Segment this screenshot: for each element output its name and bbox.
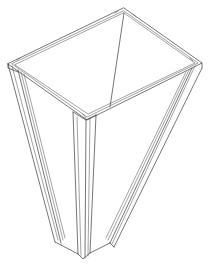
planter-drawing — [0, 0, 211, 264]
inner-fold-line — [110, 13, 124, 107]
front-corner-post — [73, 112, 96, 259]
planter-illustration — [0, 0, 211, 264]
bottom-edges — [61, 243, 110, 254]
left-corner-post — [8, 64, 65, 245]
right-corner-post — [106, 63, 202, 247]
